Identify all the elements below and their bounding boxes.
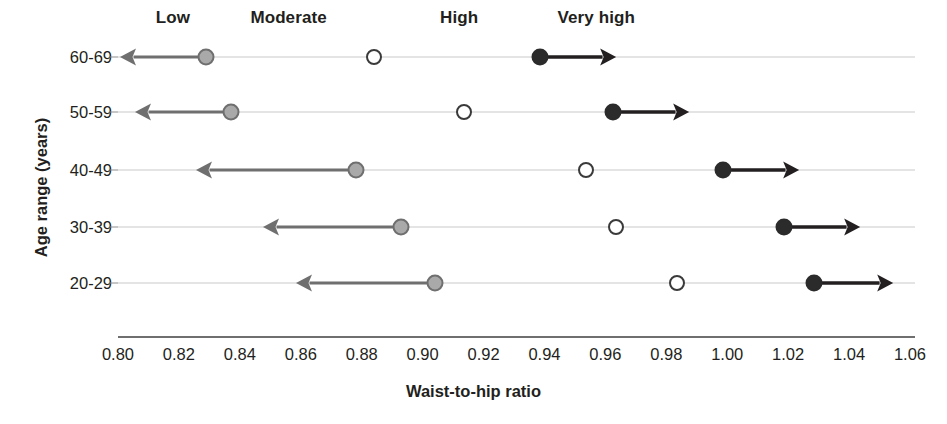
arrow-low-60-69 xyxy=(116,44,211,70)
data-point-high-30-39 xyxy=(608,219,624,235)
arrow-very-high-60-69 xyxy=(536,44,620,70)
data-point-very-high-20-29 xyxy=(806,275,823,292)
x-tick-label-1.04: 1.04 xyxy=(833,345,865,364)
data-point-low-60-69 xyxy=(198,49,215,66)
data-point-high-20-29 xyxy=(669,275,685,291)
arrow-low-50-59 xyxy=(131,99,235,125)
arrow-low-20-29 xyxy=(292,270,439,296)
y-tick-mark xyxy=(109,283,118,284)
y-tick-mark xyxy=(109,112,118,113)
data-point-low-20-29 xyxy=(426,275,443,292)
arrow-very-high-30-39 xyxy=(780,214,864,240)
arrow-very-high-50-59 xyxy=(609,99,693,125)
y-tick-mark xyxy=(109,227,118,228)
x-tick-label-0.84: 0.84 xyxy=(224,345,256,364)
x-tick-label-0.90: 0.90 xyxy=(407,345,439,364)
x-axis-line xyxy=(118,336,915,338)
x-tick-label-1.06: 1.06 xyxy=(894,345,926,364)
data-point-very-high-40-49 xyxy=(714,162,731,179)
arrow-low-40-49 xyxy=(192,157,360,183)
data-point-low-30-39 xyxy=(393,219,410,236)
x-tick-label-1.02: 1.02 xyxy=(772,345,804,364)
data-point-high-50-59 xyxy=(456,104,472,120)
x-axis-title: Waist-to-hip ratio xyxy=(0,382,947,401)
x-tick-label-0.98: 0.98 xyxy=(650,345,682,364)
arrow-very-high-40-49 xyxy=(719,157,803,183)
data-point-high-40-49 xyxy=(578,162,594,178)
x-tick-label-0.96: 0.96 xyxy=(589,345,621,364)
data-point-low-50-59 xyxy=(222,104,239,121)
data-point-very-high-30-39 xyxy=(775,219,792,236)
x-tick-label-0.92: 0.92 xyxy=(467,345,499,364)
data-point-very-high-60-69 xyxy=(531,49,548,66)
data-point-high-60-69 xyxy=(366,49,382,65)
x-tick-label-1.00: 1.00 xyxy=(711,345,743,364)
arrow-very-high-20-29 xyxy=(810,270,897,296)
chart-root: LowModerateHighVery high Age range (year… xyxy=(0,0,947,424)
x-tick-label-0.86: 0.86 xyxy=(285,345,317,364)
x-tick-label-0.82: 0.82 xyxy=(163,345,195,364)
x-tick-label-0.94: 0.94 xyxy=(528,345,560,364)
x-tick-label-0.80: 0.80 xyxy=(102,345,134,364)
x-tick-label-0.88: 0.88 xyxy=(346,345,378,364)
data-point-very-high-50-59 xyxy=(605,104,622,121)
row-gridline xyxy=(118,57,915,58)
y-tick-mark xyxy=(109,170,118,171)
row-gridline xyxy=(118,283,915,284)
data-point-low-40-49 xyxy=(347,162,364,179)
arrow-low-30-39 xyxy=(259,214,406,240)
